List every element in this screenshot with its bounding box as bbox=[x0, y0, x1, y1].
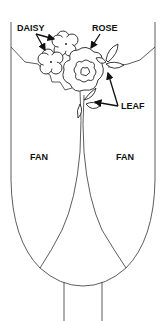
fan-diagram: DAISY ROSE LEAF FAN FAN bbox=[0, 0, 166, 321]
daisy-lower bbox=[38, 49, 63, 74]
label-rose: ROSE bbox=[92, 23, 118, 33]
label-daisy: DAISY bbox=[17, 23, 45, 33]
label-leaf: LEAF bbox=[121, 101, 145, 111]
label-fan-right: FAN bbox=[116, 152, 134, 162]
label-fan-left: FAN bbox=[30, 152, 48, 162]
